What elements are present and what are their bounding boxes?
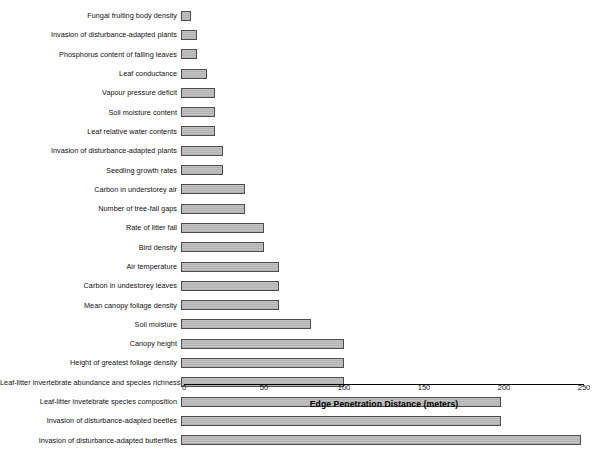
bar — [181, 300, 279, 310]
chart-row: Fungal fruiting body density — [0, 6, 598, 25]
category-label: Air temperature — [0, 262, 181, 271]
bar-track — [181, 353, 598, 372]
chart-row: Height of greatest foliage density — [0, 353, 598, 372]
category-label: Canopy height — [0, 339, 181, 348]
bar-track — [181, 160, 598, 179]
bar — [181, 49, 197, 59]
bar — [181, 435, 581, 445]
bar-track — [181, 276, 598, 295]
chart-row: Air temperature — [0, 257, 598, 276]
bar-track — [181, 238, 598, 257]
category-label: Soil moisture — [0, 320, 181, 329]
bar — [181, 339, 344, 349]
chart-row: Mean canopy foliage density — [0, 295, 598, 314]
bar-track — [181, 295, 598, 314]
category-label: Invasion of disturbance-adapted plants — [0, 146, 181, 155]
bar — [181, 107, 215, 117]
category-label: Fungal fruiting body density — [0, 11, 181, 20]
bar-track — [181, 64, 598, 83]
x-tick-label: 100 — [338, 383, 351, 393]
category-label: Mean canopy foliage density — [0, 301, 181, 310]
category-label: Invasion of disturbance-adapted butterfl… — [0, 436, 181, 445]
bar-track — [181, 199, 598, 218]
bar-track — [181, 431, 598, 449]
bar-track — [181, 315, 598, 334]
x-axis-tick-labels: 050100150200250 — [0, 383, 598, 397]
chart-row: Number of tree-fall gaps — [0, 199, 598, 218]
category-label: Seedling growth rates — [0, 166, 181, 175]
chart-row: Phosphorus content of falling leaves — [0, 45, 598, 64]
category-label: Invasion of disturbance-adapted beetles — [0, 416, 181, 425]
bar — [181, 204, 245, 214]
bar — [181, 30, 197, 40]
chart-row: Invasion of disturbance-adapted plants — [0, 25, 598, 44]
bar — [181, 11, 191, 21]
category-label: Bird density — [0, 243, 181, 252]
chart-row: Leaf relative water contents — [0, 122, 598, 141]
bar-track — [181, 180, 598, 199]
chart-row: Bird density — [0, 238, 598, 257]
bar-track — [181, 25, 598, 44]
chart-row: Vapour pressure deficit — [0, 83, 598, 102]
bar-track — [181, 45, 598, 64]
bar — [181, 223, 264, 233]
bar — [181, 88, 215, 98]
bar-track — [181, 411, 598, 430]
bar-track — [181, 141, 598, 160]
category-label: Leaf-litter invetebrate species composit… — [0, 397, 181, 406]
bar — [181, 319, 311, 329]
bar — [181, 242, 264, 252]
bar — [181, 146, 223, 156]
bar-track — [181, 83, 598, 102]
chart-row: Rate of litter fall — [0, 218, 598, 237]
bar-track — [181, 6, 598, 25]
x-tick-label: 200 — [498, 383, 511, 393]
bar — [181, 69, 207, 79]
bar — [181, 184, 245, 194]
bar — [181, 281, 279, 291]
chart-row: Carbon in understorey air — [0, 180, 598, 199]
x-tick-label: 150 — [418, 383, 431, 393]
chart-row: Invasion of disturbance-adapted butterfl… — [0, 431, 598, 449]
category-label: Carbon in understorey air — [0, 185, 181, 194]
category-label: Phosphorus content of falling leaves — [0, 50, 181, 59]
bar — [181, 262, 279, 272]
category-label: Rate of litter fall — [0, 223, 181, 232]
category-label: Leaf conductance — [0, 69, 181, 78]
category-label: Soil moisture content — [0, 108, 181, 117]
bar-track — [181, 257, 598, 276]
bar — [181, 416, 501, 426]
bar-track — [181, 218, 598, 237]
category-label: Carbon in undestorey leaves — [0, 281, 181, 290]
bar-track — [181, 334, 598, 353]
category-label: Leaf relative water contents — [0, 127, 181, 136]
bar — [181, 358, 344, 368]
chart-row: Invasion of disturbance-adapted beetles — [0, 411, 598, 430]
chart-row: Carbon in undestorey leaves — [0, 276, 598, 295]
chart-row: Soil moisture content — [0, 102, 598, 121]
chart-row: Seedling growth rates — [0, 160, 598, 179]
chart-row: Canopy height — [0, 334, 598, 353]
bar — [181, 165, 223, 175]
chart-row: Soil moisture — [0, 315, 598, 334]
x-tick-label: 0 — [182, 383, 186, 393]
category-label: Invasion of disturbance-adapted plants — [0, 30, 181, 39]
x-axis-title: Edge Penetration Distance (meters) — [184, 399, 584, 409]
chart-row: Invasion of disturbance-adapted plants — [0, 141, 598, 160]
category-label: Vapour pressure deficit — [0, 88, 181, 97]
category-label: Number of tree-fall gaps — [0, 204, 181, 213]
x-tick-label: 250 — [578, 383, 591, 393]
x-tick-label: 50 — [260, 383, 268, 393]
category-label: Height of greatest foliage density — [0, 358, 181, 367]
bar-track — [181, 122, 598, 141]
bar-track — [181, 102, 598, 121]
bar — [181, 126, 215, 136]
chart-row: Leaf conductance — [0, 64, 598, 83]
